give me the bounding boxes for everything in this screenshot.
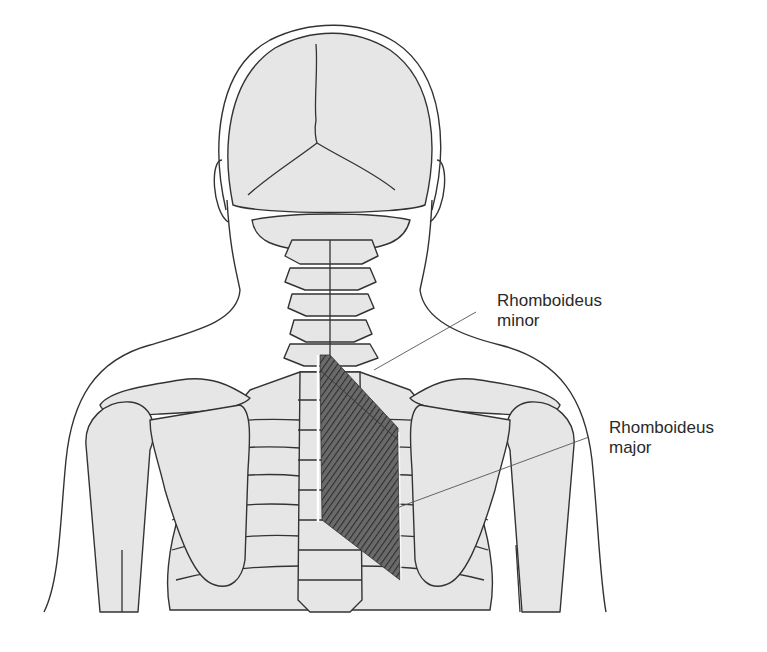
label-rhomboideus-minor: Rhomboideus minor [497, 291, 602, 331]
label-rhomboideus-major-line1: Rhomboideus [609, 418, 714, 438]
label-rhomboideus-major: Rhomboideus major [609, 418, 714, 458]
cervical-spine [284, 240, 378, 366]
label-rhomboideus-major-line2: major [609, 438, 714, 458]
label-rhomboideus-minor-line1: Rhomboideus [497, 291, 602, 311]
anatomy-illustration [0, 0, 767, 652]
skull [214, 25, 444, 252]
label-rhomboideus-minor-line2: minor [497, 311, 602, 331]
leader-line-minor [374, 312, 476, 370]
